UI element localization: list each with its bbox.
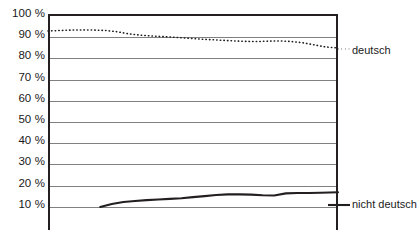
gridline-50 (50, 122, 336, 123)
gridline-70 (50, 80, 336, 81)
y-axis-label-50: 50 % (0, 114, 45, 126)
y-axis-label-40: 40 % (0, 135, 45, 147)
gridline-20 (50, 186, 336, 187)
y-axis-label-20: 20 % (0, 178, 45, 190)
gridline-30 (50, 164, 336, 165)
y-axis-label-70: 70 % (0, 72, 45, 84)
legend-label-deutsch: deutsch (352, 44, 391, 56)
y-axis-label-10: 10 % (0, 199, 45, 211)
plot-area (48, 14, 338, 230)
y-axis-label-60: 60 % (0, 93, 45, 105)
gridline-60 (50, 101, 336, 102)
y-axis-label-80: 80 % (0, 50, 45, 62)
legend-label-nicht-deutsch: nicht deutsch (352, 198, 417, 210)
y-axis-labels: 100 %90 %80 %70 %60 %50 %40 %30 %20 %10 … (0, 0, 45, 223)
gridline-40 (50, 143, 336, 144)
gridline-90 (50, 37, 336, 38)
gridline-80 (50, 58, 336, 59)
y-axis-label-100: 100 % (0, 8, 45, 20)
gridline-10 (50, 207, 336, 208)
y-axis-label-90: 90 % (0, 29, 45, 41)
y-axis-label-30: 30 % (0, 156, 45, 168)
